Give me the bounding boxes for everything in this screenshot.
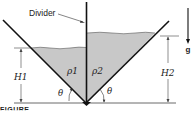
height-left-label: H1 (13, 72, 28, 82)
fluid-right-label: ρ2 (91, 66, 103, 76)
h1-arrow-down-icon (20, 99, 23, 103)
h2-arrow-up-icon (167, 37, 170, 41)
gravity-arrow-icon (186, 39, 190, 44)
angle-left-label: θ (58, 88, 63, 98)
gravity-label: g (186, 45, 191, 54)
divider-leader (58, 14, 83, 22)
h1-arrow-up-icon (20, 49, 23, 53)
height-right-label: H2 (160, 68, 175, 78)
fluid-left-label: ρ1 (66, 66, 78, 76)
angle-right-label: θ (107, 86, 112, 96)
divider-label: Divider (29, 8, 56, 18)
vertex-pivot (82, 102, 91, 106)
divider-leader-arrowhead (80, 20, 85, 22)
v-tank-diagram: Divider ρ1 ρ2 H1 H2 θ θ g FIGURE (0, 0, 192, 113)
h2-arrow-down-icon (167, 99, 170, 103)
angle-right-arrowhead (103, 100, 106, 103)
